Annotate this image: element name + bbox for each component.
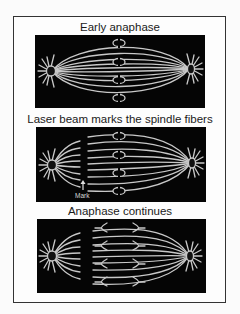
stage-3-title: Anaphase continues <box>0 204 240 218</box>
stage-1-title: Early anaphase <box>0 20 240 34</box>
stage-1-panel <box>35 35 205 108</box>
stage-3-panel <box>37 219 206 293</box>
stage-2-title: Laser beam marks the spindle fibers <box>0 112 240 126</box>
spindle-diagram-laser-mark <box>36 127 206 202</box>
up-arrow-icon <box>81 180 86 190</box>
spindle-diagram-early-anaphase <box>35 35 205 108</box>
mark-label: Mark <box>75 192 89 200</box>
stage-2-panel: Mark <box>36 127 206 202</box>
spindle-diagram-anaphase-continues <box>37 219 206 293</box>
